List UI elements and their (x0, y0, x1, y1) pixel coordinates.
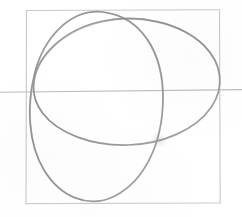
sketch-drawing-surface (0, 0, 242, 217)
rectangular-border-frame (26, 10, 220, 204)
large-tilted-ellipse (33, 18, 219, 145)
sketch-canvas (0, 0, 242, 217)
horizontal-guide-line (0, 90, 242, 93)
vertical-oval (30, 12, 163, 202)
